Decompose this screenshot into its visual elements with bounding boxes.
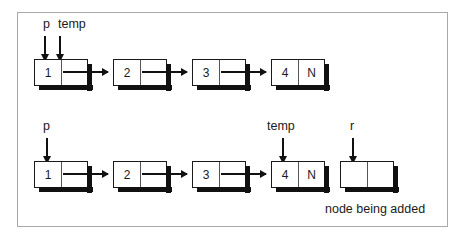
node-null-marker: N [298,60,324,85]
pointer-arrow-p-row2 [46,138,48,157]
node-value: 2 [114,162,140,187]
node-value: 2 [114,60,140,85]
diagram-canvas: p temp 1 2 3 4 N p temp r 1 2 3 [0,0,467,245]
pointer-arrow-r-row2 [352,138,354,157]
diagram-frame [17,12,448,227]
node-value: 3 [193,60,219,85]
node-value: 3 [193,162,219,187]
link-arrow-row2-0 [63,173,108,175]
new-node-caption: node being added [325,203,425,216]
node-next-cell [367,162,393,187]
node-null-marker: N [298,162,324,187]
pointer-label-p-row2: p [43,120,50,133]
pointer-label-temp-row2: temp [267,120,295,133]
node-value: 4 [272,60,298,85]
link-arrow-row1-1 [142,71,187,73]
node-value [341,162,367,187]
node-row1-3: 4 N [271,59,325,86]
link-arrow-row1-2 [221,71,266,73]
node-value: 1 [35,162,61,187]
node-value: 1 [35,60,61,85]
link-arrow-row2-2 [221,173,266,175]
node-row2-3: 4 N [271,161,325,188]
pointer-arrow-temp-row1 [59,36,61,55]
pointer-arrow-temp-row2 [282,138,284,157]
link-arrow-row2-1 [142,173,187,175]
link-arrow-row1-0 [63,71,108,73]
pointer-label-p-row1: p [43,18,50,31]
pointer-label-r-row2: r [350,120,354,133]
node-row2-new [340,161,394,188]
node-value: 4 [272,162,298,187]
pointer-label-temp-row1: temp [58,18,86,31]
pointer-arrow-p-row1 [44,36,46,55]
